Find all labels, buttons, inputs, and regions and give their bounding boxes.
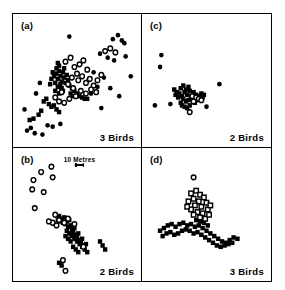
data-point bbox=[53, 212, 58, 217]
data-point bbox=[63, 59, 68, 64]
data-point bbox=[98, 51, 103, 56]
data-point bbox=[185, 204, 189, 209]
data-point bbox=[189, 221, 193, 226]
data-point bbox=[164, 231, 168, 236]
data-point bbox=[99, 73, 104, 78]
data-point bbox=[31, 177, 36, 182]
data-point bbox=[207, 212, 211, 217]
data-point bbox=[218, 244, 222, 249]
scale-bar-label: 10 Metres bbox=[64, 156, 95, 163]
data-point bbox=[66, 82, 71, 87]
data-point bbox=[191, 212, 195, 217]
data-point bbox=[212, 233, 216, 238]
data-point bbox=[191, 231, 195, 236]
data-point bbox=[49, 164, 54, 169]
data-point bbox=[216, 236, 220, 241]
data-point bbox=[172, 87, 176, 92]
data-point bbox=[45, 123, 50, 128]
data-point bbox=[61, 257, 66, 262]
data-point bbox=[180, 228, 184, 233]
data-point bbox=[87, 77, 92, 82]
data-point bbox=[38, 81, 43, 86]
data-point bbox=[169, 221, 173, 226]
data-point bbox=[62, 220, 67, 225]
panel-label-b: (b) bbox=[21, 154, 34, 165]
data-point bbox=[85, 67, 90, 72]
data-point bbox=[173, 93, 177, 98]
data-point bbox=[51, 70, 55, 75]
data-point bbox=[98, 239, 102, 244]
data-point bbox=[222, 243, 226, 248]
data-point bbox=[111, 37, 116, 42]
data-point bbox=[168, 102, 173, 107]
data-point bbox=[100, 243, 104, 248]
data-point bbox=[94, 90, 99, 95]
data-point bbox=[202, 93, 206, 98]
data-point bbox=[57, 99, 62, 104]
data-point bbox=[72, 221, 77, 226]
data-point bbox=[47, 219, 52, 224]
data-point bbox=[62, 100, 67, 105]
panel-caption-d: 3 Birds bbox=[230, 266, 264, 277]
data-point bbox=[123, 54, 128, 59]
data-point bbox=[158, 65, 163, 70]
data-point bbox=[217, 82, 222, 87]
data-point bbox=[68, 55, 73, 60]
panel-grid: (a) 3 Birds (c) 2 Birds (b) 10 Metres 2 … bbox=[12, 13, 272, 282]
data-point bbox=[95, 78, 100, 83]
data-point bbox=[85, 97, 89, 102]
data-point bbox=[42, 99, 46, 104]
data-point bbox=[203, 235, 207, 240]
data-point bbox=[91, 70, 96, 75]
data-point bbox=[204, 228, 208, 233]
data-point bbox=[53, 81, 57, 86]
data-point bbox=[186, 199, 190, 204]
data-point bbox=[70, 75, 75, 80]
data-point bbox=[204, 104, 209, 109]
data-point bbox=[199, 98, 204, 103]
data-point bbox=[84, 91, 89, 96]
data-point bbox=[159, 53, 164, 58]
data-point bbox=[235, 236, 239, 241]
data-point bbox=[53, 95, 58, 100]
scatter-plot-d bbox=[142, 148, 271, 282]
data-point bbox=[181, 220, 185, 225]
data-point bbox=[186, 85, 190, 90]
data-point bbox=[73, 94, 78, 99]
scatter-plot-a bbox=[13, 14, 141, 147]
data-point bbox=[56, 61, 60, 66]
data-point bbox=[54, 223, 59, 228]
data-point bbox=[57, 110, 61, 115]
data-point bbox=[59, 263, 63, 268]
data-point bbox=[188, 89, 192, 94]
data-point bbox=[193, 224, 197, 229]
data-point bbox=[84, 81, 89, 86]
data-point bbox=[76, 249, 80, 254]
data-point bbox=[103, 247, 107, 252]
panel-c: (c) 2 Birds bbox=[142, 14, 271, 148]
data-point bbox=[25, 128, 30, 133]
data-point bbox=[122, 41, 127, 46]
data-point bbox=[105, 55, 110, 60]
panel-caption-c: 2 Birds bbox=[230, 132, 264, 143]
data-point bbox=[177, 221, 181, 226]
data-point bbox=[162, 225, 166, 230]
data-point bbox=[189, 191, 193, 196]
figure-container: (a) 3 Birds (c) 2 Birds (b) 10 Metres 2 … bbox=[0, 0, 285, 290]
data-point bbox=[81, 58, 86, 63]
data-point bbox=[36, 112, 40, 117]
data-point bbox=[117, 94, 122, 99]
data-point bbox=[30, 186, 35, 191]
data-point bbox=[191, 196, 195, 201]
data-point bbox=[67, 34, 72, 39]
data-point bbox=[31, 116, 35, 121]
data-point bbox=[180, 103, 184, 108]
data-point bbox=[53, 89, 57, 94]
scatter-plot-b bbox=[13, 148, 141, 282]
panel-caption-b: 2 Birds bbox=[100, 266, 134, 277]
data-point bbox=[89, 87, 94, 92]
panel-label-c: (c) bbox=[150, 20, 162, 31]
data-point bbox=[49, 77, 53, 82]
data-point bbox=[34, 91, 39, 96]
data-point bbox=[199, 204, 203, 209]
